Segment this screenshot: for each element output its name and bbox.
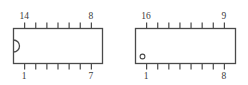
package-notch-marker	[14, 40, 20, 52]
pin-label-top-left-dip-14: 14	[19, 11, 29, 21]
pin-label-bottom-right-dip-14: 7	[89, 71, 94, 81]
pin-label-top-right-dip-16: 9	[222, 11, 227, 21]
pin-label-top-right-dip-14: 8	[89, 11, 94, 21]
pin-label-bottom-left-dip-16: 1	[144, 71, 149, 81]
pin-label-bottom-right-dip-16: 8	[222, 71, 227, 81]
package-outline-svg: 1481716918	[0, 0, 248, 85]
package-body-dip-16	[136, 29, 236, 64]
pin-label-top-left-dip-16: 16	[141, 11, 151, 21]
package-dip-16: 16918	[136, 11, 236, 81]
pin-label-bottom-left-dip-14: 1	[22, 71, 27, 81]
pin-one-dot-marker	[140, 54, 145, 59]
ic-package-diagram: 1481716918	[0, 0, 248, 85]
package-dip-14: 14817	[14, 11, 103, 81]
package-body-dip-14	[14, 29, 103, 64]
